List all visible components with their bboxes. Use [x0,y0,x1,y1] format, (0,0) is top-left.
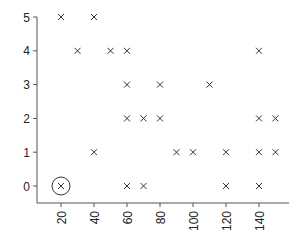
x-marker [141,183,147,189]
x-marker [91,14,97,20]
y-tick-label: 3 [23,78,30,92]
x-marker [273,115,279,121]
x-marker [256,183,262,189]
x-marker [75,48,81,54]
x-tick-label: 100 [187,211,201,231]
y-tick-label: 4 [23,44,30,58]
x-marker [58,14,64,20]
y-tick-label: 2 [23,112,30,126]
x-marker [207,82,213,88]
x-tick-label: 140 [253,211,267,231]
x-marker [190,149,196,155]
x-marker [157,115,163,121]
x-marker [223,149,229,155]
data-points [58,14,279,189]
scatter-chart: 01234520406080100120140 [0,0,306,242]
x-marker [108,48,114,54]
x-marker [256,48,262,54]
x-marker [58,183,64,189]
x-marker [124,82,130,88]
x-marker [174,149,180,155]
y-tick-label: 5 [23,11,30,25]
y-tick-label: 1 [23,146,30,160]
x-marker [124,48,130,54]
x-marker [124,183,130,189]
x-tick-label: 80 [154,211,168,225]
axes: 01234520406080100120140 [23,11,289,232]
x-tick-label: 20 [55,211,69,225]
x-marker [157,82,163,88]
x-marker [91,149,97,155]
x-marker [223,183,229,189]
x-tick-label: 120 [220,211,234,231]
x-tick-label: 40 [88,211,102,225]
x-marker [141,115,147,121]
x-marker [273,149,279,155]
x-marker [124,115,130,121]
y-tick-label: 0 [23,180,30,194]
x-marker [256,149,262,155]
x-marker [256,115,262,121]
x-tick-label: 60 [121,211,135,225]
